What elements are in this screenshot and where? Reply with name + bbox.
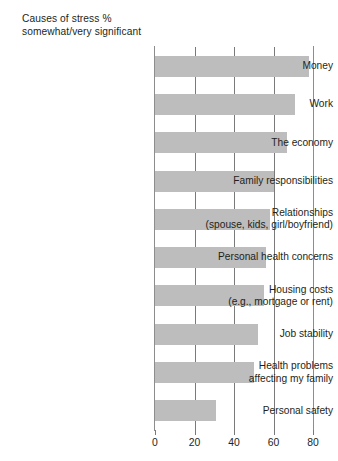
tick-mark-80 [313,430,314,435]
category-label: The economy [190,137,338,149]
category-label: Relationships (spouse, kids, girl/boyfri… [190,207,338,232]
chart-title: Causes of stress % somewhat/very signifi… [22,13,141,38]
tick-label-80: 80 [298,437,328,449]
category-label: Family responsibilities [190,175,338,187]
tick-label-0: 0 [140,437,170,449]
category-label: Housing costs (e.g., mortgage or rent) [190,284,338,309]
tick-mark-20 [195,430,196,435]
category-label: Personal safety [190,405,338,417]
category-label: Work [190,98,338,110]
tick-mark-40 [234,430,235,435]
category-label: Personal health concerns [190,251,338,263]
stress-causes-bar-chart: Causes of stress % somewhat/very signifi… [0,0,338,461]
tick-mark-0 [155,430,156,435]
tick-mark-60 [274,430,275,435]
category-label: Money [190,60,338,72]
category-label: Job stability [190,328,338,340]
tick-label-20: 20 [180,437,210,449]
tick-label-40: 40 [219,437,249,449]
category-label: Health problems affecting my family [190,360,338,385]
tick-label-60: 60 [259,437,289,449]
